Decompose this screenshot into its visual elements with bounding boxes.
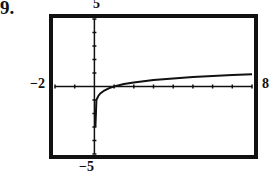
function-curve [95,74,252,127]
graph-window [0,0,276,180]
